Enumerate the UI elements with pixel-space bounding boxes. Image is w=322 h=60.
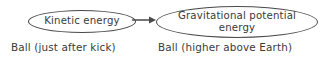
arrow-right-icon (130, 11, 158, 29)
node-gravitational-potential-energy-label: Gravitational potential energy (178, 10, 296, 32)
caption-kinetic-energy: Ball (just after kick) (11, 41, 116, 53)
energy-transfer-diagram: Kinetic energy Gravitational potential e… (0, 0, 322, 60)
node-gravitational-potential-energy: Gravitational potential energy (156, 6, 318, 38)
caption-gravitational-potential-energy: Ball (higher above Earth) (158, 41, 292, 53)
node-kinetic-energy-label: Kinetic energy (44, 15, 120, 26)
node-kinetic-energy: Kinetic energy (28, 10, 136, 33)
